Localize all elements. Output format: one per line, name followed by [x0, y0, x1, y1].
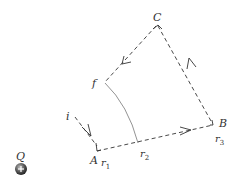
corner-a [96, 143, 101, 151]
label-f: f [91, 77, 98, 90]
arrowheads [82, 56, 196, 136]
label-c: C [153, 11, 162, 24]
arrow-a-b-icon [180, 127, 191, 135]
segment-b-c [158, 26, 211, 121]
corner-c [153, 25, 162, 29]
segment-c-f [105, 26, 156, 82]
label-b: B [218, 117, 227, 130]
arrow-c-f-icon [122, 56, 131, 64]
positive-charge-icon [15, 163, 27, 175]
label-a: A [89, 154, 98, 167]
label-r1: r1 [101, 157, 110, 171]
label-r2: r2 [140, 148, 149, 162]
arc-f-to-ab [105, 83, 138, 143]
label-r3: r3 [215, 133, 224, 147]
charge-path-diagram: C f i A B r1 r2 r3 Q [0, 0, 240, 184]
label-i: i [66, 110, 70, 123]
arrow-i-a-icon [82, 124, 91, 136]
label-q: Q [16, 150, 25, 163]
arrow-b-c-icon [187, 58, 196, 69]
segment-a-b [97, 125, 213, 151]
